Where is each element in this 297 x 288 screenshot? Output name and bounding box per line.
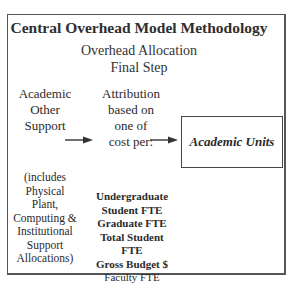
diagram-title: Central Overhead Model Methodology (0, 19, 278, 37)
note-line: Physical (6, 185, 84, 199)
cost-basis-item: Undergraduate (80, 190, 184, 204)
note-line: Plant, (6, 198, 84, 212)
note-line: Institutional (6, 225, 84, 239)
diagram-subtitle: Overhead Allocation Final Step (0, 42, 278, 76)
attribution-line: Attribution (90, 86, 172, 102)
source-line: Support (6, 118, 84, 134)
note-line: Allocations) (6, 252, 84, 266)
source-line: Academic (6, 86, 84, 102)
attribution-line: one of (90, 118, 172, 134)
academic-units-label: Academic Units (182, 117, 282, 167)
source-note: (includes Physical Plant, Computing & In… (6, 171, 84, 266)
cost-basis-item: Total Student (80, 231, 184, 245)
source-node: Academic Other Support (6, 86, 84, 134)
note-line: Support (6, 239, 84, 253)
cost-basis-item: Graduate FTE (80, 217, 184, 231)
subtitle-line-2: Final Step (0, 59, 278, 76)
cost-basis-item: FTE (80, 244, 184, 258)
cost-basis-item: Student FTE (80, 204, 184, 218)
cost-basis-item: Faculty FTE (80, 271, 184, 285)
note-line: Computing & (6, 212, 84, 226)
note-line: (includes (6, 171, 84, 185)
cost-basis-list: Undergraduate Student FTE Graduate FTE T… (80, 190, 184, 285)
source-line: Other (6, 102, 84, 118)
attribution-line: based on (90, 102, 172, 118)
subtitle-line-1: Overhead Allocation (0, 42, 278, 59)
arrow-right-icon (149, 135, 179, 145)
academic-units-box: Academic Units (181, 116, 283, 168)
cost-basis-item: Gross Budget $ (80, 258, 184, 272)
